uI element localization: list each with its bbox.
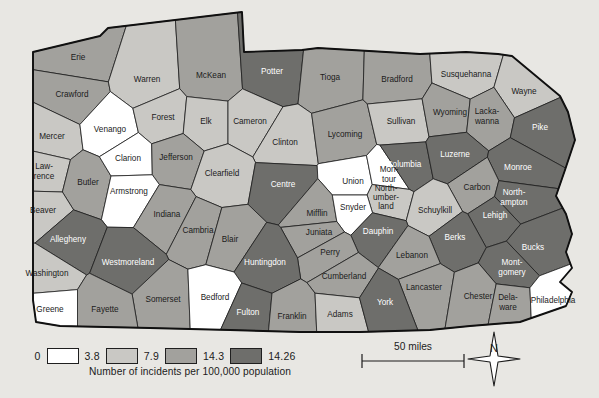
- legend-swatch-light[interactable]: [106, 348, 138, 364]
- legend-caption: Number of incidents per 100,000 populati…: [0, 366, 380, 377]
- legend-break-2: 7.9: [138, 350, 165, 362]
- legend-break-1: 3.8: [79, 350, 106, 362]
- compass-north-letter: N: [490, 342, 498, 354]
- legend-break-3: 14.3: [197, 350, 230, 362]
- legend-swatch-white[interactable]: [47, 348, 79, 364]
- legend-break-0: 0: [29, 350, 47, 362]
- scale-bar: [358, 345, 468, 371]
- choropleth-figure: ErieCrawfordWarrenMcKeanPotterTiogaBradf…: [0, 0, 599, 398]
- county-sullivan[interactable]: [367, 99, 429, 145]
- county-shapes-layer: [33, 12, 575, 332]
- legend-swatch-medium[interactable]: [165, 348, 197, 364]
- legend: 03.87.914.314.26: [0, 345, 330, 367]
- county-mckean[interactable]: [175, 13, 242, 102]
- legend-break-4: 14.26: [262, 350, 301, 362]
- county-greene[interactable]: [33, 290, 78, 327]
- county-bradford[interactable]: [363, 51, 432, 104]
- compass-rose-icon: N: [466, 330, 522, 388]
- legend-swatch-dark[interactable]: [230, 348, 262, 364]
